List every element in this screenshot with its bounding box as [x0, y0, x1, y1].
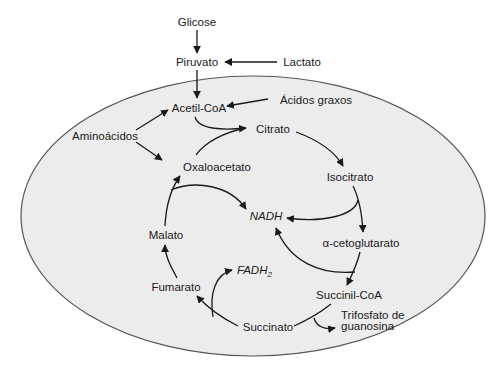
label-glicose: Glicose	[178, 16, 216, 28]
label-acetil-coa: Acetil-CoA	[172, 102, 227, 114]
label-alfa-cetoglutarato: α-cetoglutarato	[323, 237, 400, 249]
label-malato: Malato	[149, 229, 184, 241]
tca-cycle-diagram: Glicose Piruvato Lactato Acetil-CoA Ácid…	[0, 0, 501, 371]
label-gtp-line2: guanosina	[341, 320, 395, 332]
label-isocitrato: Isocitrato	[327, 171, 374, 183]
label-fumarato: Fumarato	[151, 281, 200, 293]
label-nadh: NADH	[250, 210, 283, 222]
label-succinil-coa: Succinil-CoA	[316, 289, 382, 301]
label-oxaloacetato: Oxaloacetato	[183, 161, 251, 173]
label-piruvato: Piruvato	[176, 56, 218, 68]
label-citrato: Citrato	[256, 123, 290, 135]
label-aminoacidos: Aminoácidos	[72, 130, 138, 142]
label-lactato: Lactato	[283, 56, 321, 68]
label-succinato: Succinato	[243, 321, 294, 333]
label-acidos-graxos: Ácidos graxos	[280, 94, 352, 106]
